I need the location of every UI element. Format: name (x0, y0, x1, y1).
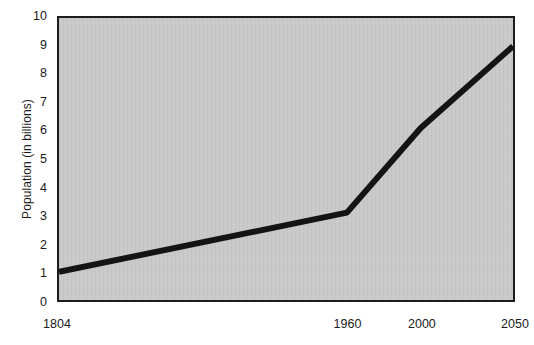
x-tick-label: 1804 (27, 318, 87, 331)
y-axis-title: Population (in billions) (18, 16, 36, 302)
x-tick-label: 1960 (317, 318, 377, 331)
data-line-svg (59, 18, 513, 300)
x-tick-label: 2000 (392, 318, 452, 331)
x-tick-label: 2050 (485, 318, 534, 331)
population-data-line (59, 46, 513, 272)
plot-area (57, 16, 515, 302)
